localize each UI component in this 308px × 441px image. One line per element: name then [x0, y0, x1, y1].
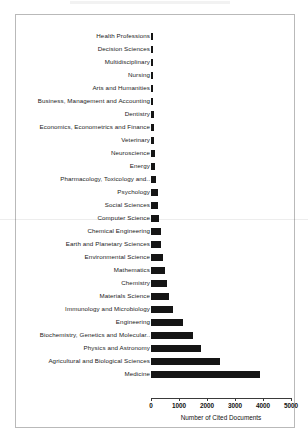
x-axis-line: [151, 398, 291, 399]
x-tick-mark: [179, 398, 180, 401]
bar: [151, 163, 155, 170]
bar: [151, 228, 161, 235]
bar: [151, 189, 158, 196]
x-tick-label: 2000: [200, 402, 214, 409]
x-tick-mark: [235, 398, 236, 401]
bar: [151, 358, 220, 365]
x-tick-label: 1000: [172, 402, 186, 409]
bar: [151, 332, 193, 339]
bar: [151, 150, 155, 157]
bar: [151, 319, 183, 326]
bar: [151, 33, 153, 40]
bar: [151, 267, 165, 274]
bar: [151, 306, 173, 313]
x-tick-mark: [207, 398, 208, 401]
bars-area: Health ProfessionsDecision SciencesMulti…: [16, 15, 296, 429]
x-tick-label: 3000: [228, 402, 242, 409]
bar: [151, 280, 167, 287]
bar: [151, 345, 201, 352]
x-axis-title: Number of Cited Documents: [151, 414, 291, 421]
x-tick-mark: [151, 398, 152, 401]
bar: [151, 202, 158, 209]
bar: [151, 72, 153, 79]
bar: [151, 241, 161, 248]
bar-row: Medicine: [16, 366, 296, 382]
x-tick-mark: [263, 398, 264, 401]
bar: [151, 254, 163, 261]
scan-artifact-top: [70, 1, 230, 4]
x-tick-label: 4000: [256, 402, 270, 409]
bar: [151, 111, 154, 118]
x-tick-mark: [291, 398, 292, 401]
x-tick-label: 0: [149, 402, 153, 409]
bar: [151, 293, 169, 300]
plot-frame: Health ProfessionsDecision SciencesMulti…: [15, 14, 295, 428]
bar: [151, 137, 154, 144]
bar: [151, 215, 159, 222]
bar: [151, 124, 154, 131]
category-label: Medicine: [124, 366, 150, 382]
bar: [151, 98, 153, 105]
cited-documents-bar-chart: Health ProfessionsDecision SciencesMulti…: [0, 0, 308, 441]
bar: [151, 371, 260, 378]
bar: [151, 85, 153, 92]
x-tick-label: 5000: [284, 402, 298, 409]
bar: [151, 176, 156, 183]
bar: [151, 59, 153, 66]
bar: [151, 46, 153, 53]
